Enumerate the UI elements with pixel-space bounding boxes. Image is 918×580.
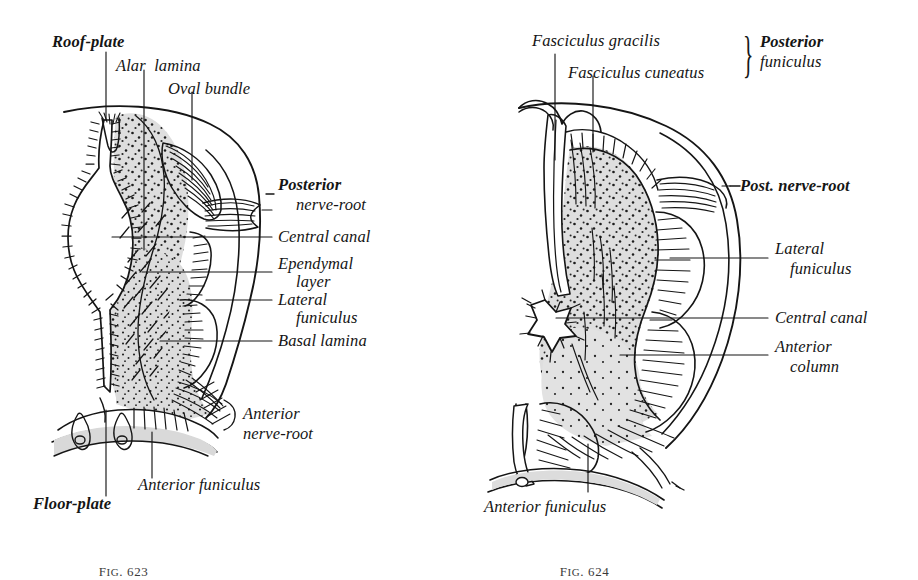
label-fasciculus-gracilis: Fasciculus gracilis <box>532 32 660 50</box>
label-lateral-funiculus-624-line1: Lateral <box>775 240 824 258</box>
caption-623-ig: IG <box>107 566 120 578</box>
label-lateral-funiculus-624-line2: funiculus <box>790 260 851 278</box>
fig623-anterior-root-brace <box>224 400 235 430</box>
label-posterior-funiculus-line2: funiculus <box>760 53 821 71</box>
label-anterior-funiculus-623: Anterior funiculus <box>138 476 260 494</box>
label-anterior-funiculus-624: Anterior funiculus <box>484 498 606 516</box>
posterior-funiculus-brace: } <box>743 31 753 77</box>
label-anterior-column-line1: Anterior <box>775 338 832 356</box>
label-floor-plate: Floor-plate <box>33 495 111 513</box>
caption-623-f: F <box>99 564 107 579</box>
caption-fig-623: FIG. 623 <box>92 552 148 580</box>
label-anterior-column-line2: column <box>790 358 839 376</box>
label-posterior-funiculus-line1: Posterior <box>760 33 823 51</box>
label-post-nerve-root: Post. nerve-root <box>740 177 850 195</box>
figure-623-drawing <box>52 52 274 496</box>
label-lateral-funiculus-623-line1: Lateral <box>278 291 327 309</box>
fig624-lateral-funiculus-ribs-upper <box>655 218 690 315</box>
fig624-post-nerve-root <box>659 183 716 212</box>
caption-624-ig: IG <box>568 566 581 578</box>
label-ependymal-layer-line2: layer <box>296 273 330 291</box>
caption-fig-624: FIG. 624 <box>553 552 609 580</box>
label-central-canal-623: Central canal <box>278 228 371 246</box>
fig623-marginal-ribs <box>187 236 208 295</box>
caption-624-f: F <box>560 564 568 579</box>
fig624-central-vessel <box>516 478 528 487</box>
label-central-canal-624: Central canal <box>775 309 868 327</box>
fig624-ventral-strands <box>632 448 684 490</box>
label-anterior-nerve-root-line1: Anterior <box>243 405 300 423</box>
label-posterior-nerve-root-line2: nerve-root <box>296 196 366 214</box>
label-basal-lamina: Basal lamina <box>278 332 367 350</box>
figure-624-drawing <box>488 54 768 508</box>
label-lateral-funiculus-623-line2: funiculus <box>296 309 357 327</box>
fig624-post-nerve-root-outline <box>657 177 727 208</box>
caption-624-num: . 624 <box>580 564 609 579</box>
caption-623-num: . 623 <box>119 564 148 579</box>
label-posterior-nerve-root-line1: Posterior <box>278 176 341 194</box>
label-fasciculus-cuneatus: Fasciculus cuneatus <box>568 64 704 82</box>
label-oval-bundle: Oval bundle <box>168 80 250 98</box>
label-ependymal-layer-line1: Ependymal <box>278 255 353 273</box>
fig623-posterior-nerve-root <box>205 203 255 226</box>
label-anterior-nerve-root-line2: nerve-root <box>243 425 313 443</box>
label-alar-lamina: Alar lamina <box>116 57 201 75</box>
label-roof-plate: Roof-plate <box>52 33 125 51</box>
